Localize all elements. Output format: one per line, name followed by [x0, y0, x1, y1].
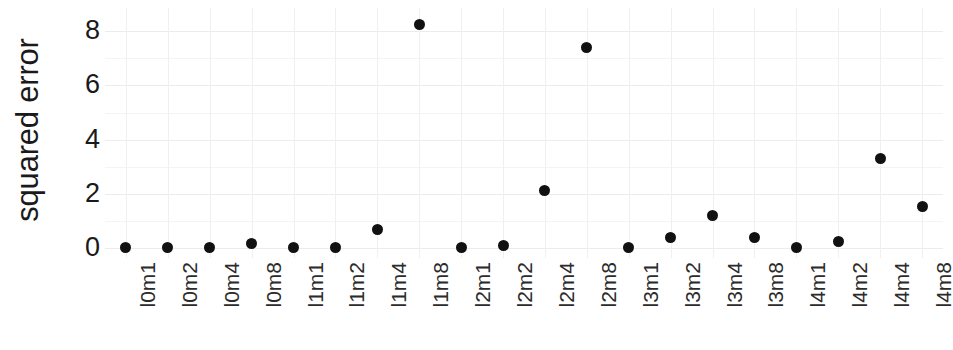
- data-point: [330, 242, 341, 253]
- gridline-vertical: [880, 8, 881, 258]
- gridline-vertical: [796, 8, 797, 258]
- gridline-vertical: [335, 8, 336, 258]
- data-point: [456, 242, 467, 253]
- gridline-vertical: [461, 8, 462, 258]
- data-point: [372, 224, 383, 235]
- x-axis-tick-label: l3m2: [682, 258, 704, 350]
- data-point: [581, 42, 592, 53]
- data-point: [414, 19, 425, 30]
- data-point: [498, 240, 509, 251]
- data-point: [917, 201, 928, 212]
- y-axis-title: squared error: [10, 38, 46, 222]
- x-axis-tick-label: l2m4: [556, 258, 578, 350]
- gridline-vertical: [419, 8, 420, 258]
- gridline-vertical: [377, 8, 378, 258]
- data-point: [791, 242, 802, 253]
- data-point: [875, 153, 886, 164]
- x-axis-tick-label: l2m8: [598, 258, 620, 350]
- x-axis-tick-label: l4m8: [933, 258, 953, 350]
- x-axis-tick-labels: l0m1l0m2l0m4l0m8l1m1l1m2l1m4l1m8l2m1l2m2…: [105, 258, 943, 350]
- x-axis-tick-label: l0m2: [179, 258, 201, 350]
- gridline-vertical: [252, 8, 253, 258]
- y-axis-tick-label: 8: [66, 17, 100, 44]
- gridline-horizontal: [105, 140, 943, 141]
- gridline-vertical: [503, 8, 504, 258]
- gridline-horizontal: [105, 85, 943, 86]
- gridline-horizontal: [105, 194, 943, 195]
- x-axis-tick-label: l0m1: [137, 258, 159, 350]
- scatter-plot-figure: squared error 02468 l0m1l0m2l0m4l0m8l1m1…: [0, 0, 953, 350]
- plot-area: [105, 8, 943, 258]
- gridline-horizontal-minor: [105, 167, 943, 168]
- data-point: [246, 238, 257, 249]
- x-axis-tick-label: l0m8: [263, 258, 285, 350]
- x-axis-tick-label: l1m4: [388, 258, 410, 350]
- gridline-vertical: [838, 8, 839, 258]
- data-point: [623, 242, 634, 253]
- x-axis-tick-label: l1m8: [430, 258, 452, 350]
- y-axis-tick-label: 6: [66, 71, 100, 98]
- x-axis-tick-label: l1m2: [346, 258, 368, 350]
- gridline-horizontal: [105, 248, 943, 249]
- x-axis-tick-label: l3m4: [724, 258, 746, 350]
- gridline-vertical: [545, 8, 546, 258]
- y-axis-tick-label: 2: [66, 180, 100, 207]
- data-point: [539, 185, 550, 196]
- x-axis-tick-label: l4m1: [807, 258, 829, 350]
- data-point: [833, 236, 844, 247]
- data-point: [707, 210, 718, 221]
- data-point: [749, 232, 760, 243]
- data-point: [162, 242, 173, 253]
- gridline-horizontal-minor: [105, 58, 943, 59]
- x-axis-tick-label: l3m1: [640, 258, 662, 350]
- y-axis-tick-label: 4: [66, 126, 100, 153]
- gridline-vertical: [671, 8, 672, 258]
- gridline-vertical: [754, 8, 755, 258]
- gridline-horizontal-minor: [105, 221, 943, 222]
- x-axis-tick-label: l4m2: [849, 258, 871, 350]
- x-axis-tick-label: l4m4: [891, 258, 913, 350]
- x-axis-tick-label: l2m1: [472, 258, 494, 350]
- y-axis-title-container: squared error: [0, 0, 56, 260]
- gridline-vertical: [210, 8, 211, 258]
- gridline-horizontal: [105, 31, 943, 32]
- gridline-vertical: [629, 8, 630, 258]
- x-axis-tick-label: l1m1: [305, 258, 327, 350]
- gridline-vertical: [294, 8, 295, 258]
- data-point: [665, 232, 676, 243]
- x-axis-tick-label: l3m8: [765, 258, 787, 350]
- data-point: [120, 242, 131, 253]
- gridline-vertical: [126, 8, 127, 258]
- gridline-vertical: [168, 8, 169, 258]
- x-axis-tick-label: l2m2: [514, 258, 536, 350]
- data-point: [288, 242, 299, 253]
- y-axis-tick-labels: 02468: [56, 0, 100, 260]
- gridline-horizontal-minor: [105, 113, 943, 114]
- gridline-vertical: [922, 8, 923, 258]
- data-point: [204, 242, 215, 253]
- y-axis-tick-label: 0: [66, 234, 100, 261]
- x-axis-tick-label: l0m4: [221, 258, 243, 350]
